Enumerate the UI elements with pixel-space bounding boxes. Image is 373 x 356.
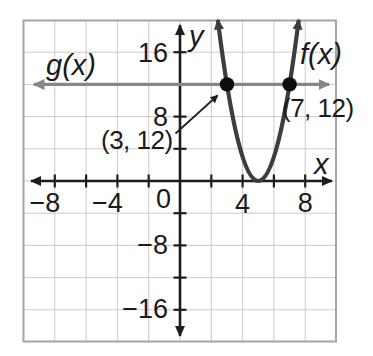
- graph-figure: 16 8 −8 −16 −8 −4 0 4 8 y x f(x) g(x) (3…: [0, 0, 373, 356]
- y-axis-label: y: [187, 20, 205, 52]
- x-axis-label: x: [312, 148, 330, 180]
- x-tick-label-8: 8: [298, 188, 313, 218]
- x-tick-label-neg4: −4: [92, 188, 123, 218]
- y-tick-label-neg16: −16: [122, 294, 168, 324]
- point-7-12: [282, 77, 296, 91]
- origin-label: 0: [156, 184, 171, 214]
- y-tick-label-neg8: −8: [137, 230, 168, 260]
- point-label-3-12: (3, 12): [101, 125, 173, 155]
- y-tick-label-16: 16: [138, 38, 168, 68]
- x-tick-label-neg8: −8: [29, 188, 60, 218]
- f-curve-label: f(x): [300, 38, 342, 70]
- figure-svg: 16 8 −8 −16 −8 −4 0 4 8 y x f(x) g(x) (3…: [0, 0, 373, 356]
- g-curve-label: g(x): [46, 49, 96, 81]
- x-tick-label-4: 4: [235, 189, 250, 219]
- point-label-7-12: (7, 12): [282, 93, 354, 123]
- point-3-12: [220, 77, 234, 91]
